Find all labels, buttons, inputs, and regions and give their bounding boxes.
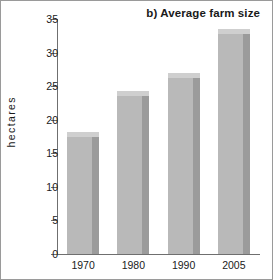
- bar-top-face: [168, 73, 200, 78]
- bar-2005: [218, 29, 250, 254]
- x-tick-label-1990: 1990: [172, 259, 195, 271]
- bar-front-face: [218, 34, 243, 254]
- y-tick-label: 15: [12, 147, 58, 159]
- x-axis-line: [57, 254, 260, 255]
- y-tick-label: 0: [12, 248, 58, 260]
- bar-side-face: [193, 78, 200, 254]
- y-axis-ticks: 05101520253035: [1, 1, 58, 280]
- y-tick-label: 25: [12, 80, 58, 92]
- bar-side-face: [142, 96, 149, 254]
- y-tick-label: 30: [12, 47, 58, 59]
- x-tick-label-1970: 1970: [71, 259, 94, 271]
- y-tick-label: 5: [12, 214, 58, 226]
- bar-1970: [67, 132, 99, 255]
- bar-1990: [168, 73, 200, 254]
- bar-front-face: [117, 96, 142, 254]
- bar-top-face: [218, 29, 250, 34]
- y-tick-label: 35: [12, 13, 58, 25]
- x-tick-label-2005: 2005: [222, 259, 245, 271]
- y-tick-label: 20: [12, 114, 58, 126]
- x-tick-label-1980: 1980: [122, 259, 145, 271]
- chart-title: b) Average farm size: [146, 7, 260, 19]
- bar-side-face: [243, 34, 250, 254]
- y-tick-label: 10: [12, 181, 58, 193]
- figure-panel: b) Average farm size hectares 0510152025…: [0, 0, 273, 280]
- bar-front-face: [168, 78, 193, 254]
- bar-top-face: [117, 91, 149, 96]
- plot-area: [58, 19, 259, 254]
- bar-side-face: [92, 137, 99, 255]
- bar-top-face: [67, 132, 99, 137]
- bar-front-face: [67, 137, 92, 255]
- bar-1980: [117, 91, 149, 254]
